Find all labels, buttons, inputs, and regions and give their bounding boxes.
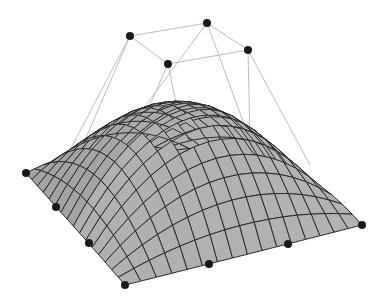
bezier-surface-diagram [0, 0, 386, 304]
bezier-surface [26, 101, 362, 285]
control-point [205, 260, 213, 268]
control-point [164, 60, 172, 68]
control-net-edge [130, 23, 207, 36]
control-point [121, 281, 129, 289]
control-net-edge [130, 36, 168, 64]
control-point [126, 32, 134, 40]
control-net-edge [168, 50, 248, 64]
control-point [52, 203, 60, 211]
control-point [22, 169, 30, 177]
control-point [85, 239, 93, 247]
control-point [284, 240, 292, 248]
control-point [244, 46, 252, 54]
control-point [358, 221, 366, 229]
control-net-edge [207, 23, 248, 50]
control-point [203, 19, 211, 27]
